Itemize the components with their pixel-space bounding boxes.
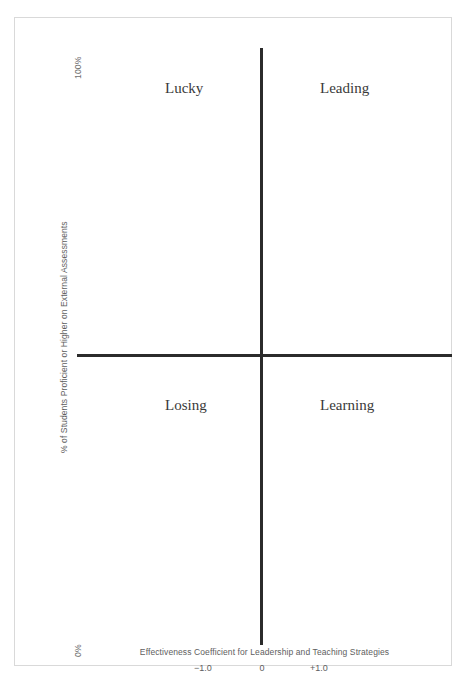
quadrant-label-lucky: Lucky: [165, 80, 203, 97]
quadrant-label-losing: Losing: [165, 397, 207, 414]
chart-frame-border: Lucky Leading Losing Learning 100% 0% % …: [14, 17, 452, 666]
vertical-axis-line: [260, 48, 263, 645]
quadrant-chart-canvas: Lucky Leading Losing Learning 100% 0% % …: [0, 0, 468, 683]
x-axis-title: Effectiveness Coefficient for Leadership…: [77, 647, 452, 657]
x-axis-tick-zero: 0: [242, 663, 282, 673]
y-axis-title: % of Students Proficient or Higher on Ex…: [59, 221, 69, 453]
quadrant-label-learning: Learning: [320, 397, 374, 414]
x-axis-tick-negative-one: −1.0: [183, 663, 223, 673]
quadrant-label-leading: Leading: [320, 80, 369, 97]
horizontal-axis-line: [77, 354, 452, 357]
x-axis-tick-positive-one: +1.0: [299, 663, 339, 673]
y-axis-max-label: 100%: [73, 56, 83, 79]
